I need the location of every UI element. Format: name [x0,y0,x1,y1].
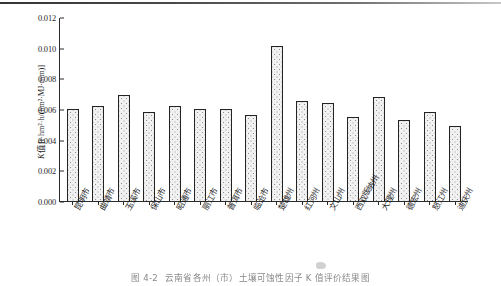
bar [245,115,257,201]
x-axis-label-slot: 普洱市 [219,206,231,262]
x-axis-label-slot: 西双版纳州 [347,206,359,262]
x-axis-label-slot: 文山州 [321,206,333,262]
x-axis-label-slot: 大理州 [373,206,385,262]
x-axis-label-slot: 红河州 [296,206,308,262]
bar [169,106,181,201]
x-axis-label-slot: 楚雄州 [270,206,282,262]
bar [67,109,79,201]
bar [322,103,334,201]
y-axis-tick-label: 0.004 [38,136,60,145]
y-axis-tick-label: 0.010 [38,44,60,53]
x-axis-label-slot: 保山市 [142,206,154,262]
x-axis-label-slot: 昭通市 [168,206,180,262]
y-axis-tick-label: 0.000 [38,198,60,207]
y-axis-tick-label: 0.002 [38,167,60,176]
bar [296,101,308,201]
x-axis-label-slot: 迪庆州 [449,206,461,262]
bar [143,112,155,201]
figure-container: K值 [t·hm²·h/(hm²·MJ·mm)] 0.0000.0020.004… [0,0,501,286]
x-axis-label-slot: 丽江市 [194,206,206,262]
y-axis-symbol: K [37,153,46,158]
bar [424,112,436,201]
y-axis-tick-label: 0.012 [38,14,60,23]
x-axis-label-slot: 昆明市 [66,206,78,262]
bar [92,106,104,201]
bar [194,109,206,201]
x-axis-label-slot: 怒江州 [424,206,436,262]
x-axis-category-labels: 昆明市曲靖市玉溪市保山市昭通市丽江市普洱市临沧市楚雄州红河州文山州西双版纳州大理… [59,206,468,262]
chart-plot-area: K值 [t·hm²·h/(hm²·MJ·mm)] 0.0000.0020.004… [59,18,468,202]
x-axis-label-slot: 德宏州 [398,206,410,262]
x-axis-label-slot: 曲靖市 [91,206,103,262]
x-axis-label-slot: 临沧市 [245,206,257,262]
bar [347,117,359,201]
y-axis-tick-label: 0.006 [38,106,60,115]
bar [449,126,461,201]
bar [398,120,410,201]
x-axis-label-slot: 玉溪市 [117,206,129,262]
scan-smudge-artifact [316,262,326,269]
figure-caption: 图 4-2云南省各州（市）土壤可蚀性因子 K 值评价结果图 [0,271,501,283]
y-axis-tick-label: 0.008 [38,75,60,84]
bar [220,109,232,201]
bar [271,46,283,201]
figure-caption-text: 云南省各州（市）土壤可蚀性因子 K 值评价结果图 [165,273,370,283]
bar [118,95,130,201]
figure-caption-number: 图 4-2 [131,273,158,283]
bar-series [60,18,468,201]
